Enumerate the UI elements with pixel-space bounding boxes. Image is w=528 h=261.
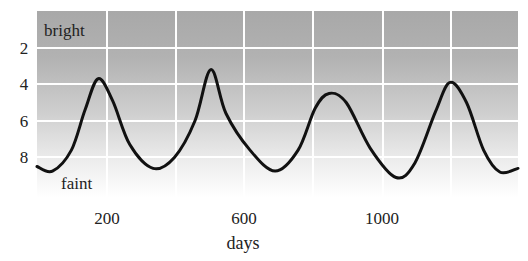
x-tick-200: 200 [94,209,120,228]
x-axis-title: days [227,233,260,253]
y-tick-4: 4 [20,75,29,94]
y-axis-ticks: 2 4 6 8 [20,39,29,167]
light-curve-chart: bright faint 2 4 6 8 200 600 1000 days [0,0,528,261]
y-tick-8: 8 [20,148,29,167]
y-tick-6: 6 [20,112,29,131]
y-tick-2: 2 [20,39,29,58]
bright-label: bright [44,21,85,40]
plot-background [37,11,518,197]
faint-label: faint [61,174,92,193]
x-tick-600: 600 [231,209,257,228]
x-tick-1000: 1000 [365,209,399,228]
x-axis-ticks: 200 600 1000 [94,209,399,228]
